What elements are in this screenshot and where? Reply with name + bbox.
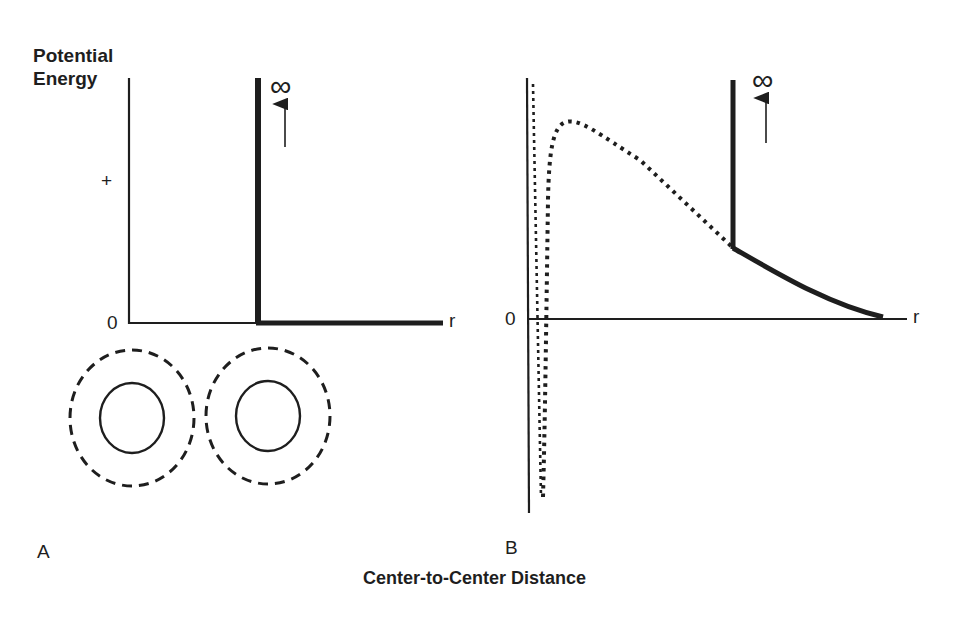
panel-b-realistic-potential-curve xyxy=(543,121,731,497)
y-axis-label-line1: Potential xyxy=(33,44,113,67)
panel-b-zero-tick: 0 xyxy=(505,308,516,330)
panel-a-zero-tick: 0 xyxy=(107,312,118,334)
sphere-left xyxy=(70,350,194,486)
panel-b-y-axis xyxy=(527,78,529,513)
panel-a-label: A xyxy=(37,541,50,563)
panel-a-plus-tick: + xyxy=(101,170,112,192)
panel-a-r-label: r xyxy=(449,310,455,332)
panel-b-infinity-symbol: ∞ xyxy=(752,65,773,95)
panel-b-plot xyxy=(527,78,907,513)
sphere-right xyxy=(206,348,330,484)
panel-b-r-label: r xyxy=(913,306,919,328)
panel-b-repulsive-tail xyxy=(733,248,883,317)
panel-a-plot xyxy=(70,78,443,486)
panel-b-label: B xyxy=(505,537,518,559)
x-axis-label: Center-to-Center Distance xyxy=(363,568,586,589)
diagram-canvas xyxy=(0,0,954,621)
y-axis-label: Potential Energy xyxy=(33,44,113,90)
panel-b-dotted-wall xyxy=(533,84,541,497)
panel-a-infinity-symbol: ∞ xyxy=(270,71,291,101)
y-axis-label-line2: Energy xyxy=(33,67,113,90)
